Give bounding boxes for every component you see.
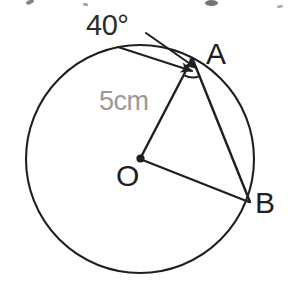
- angle-value-label: 40°: [86, 11, 128, 40]
- diagram-canvas: 40° 5cm A B O: [0, 0, 288, 282]
- callout-leader-lower: [118, 47, 192, 71]
- callout-leader-upper: [146, 33, 196, 68]
- segment-ab: [193, 60, 250, 202]
- geometry-figure: [0, 0, 288, 282]
- segment-ob: [140, 159, 249, 202]
- point-label-o: O: [116, 161, 139, 191]
- angle-arc-at-a: [184, 75, 199, 77]
- radius-length-label: 5cm: [99, 88, 149, 115]
- point-label-b: B: [255, 188, 275, 218]
- point-label-a: A: [206, 39, 226, 69]
